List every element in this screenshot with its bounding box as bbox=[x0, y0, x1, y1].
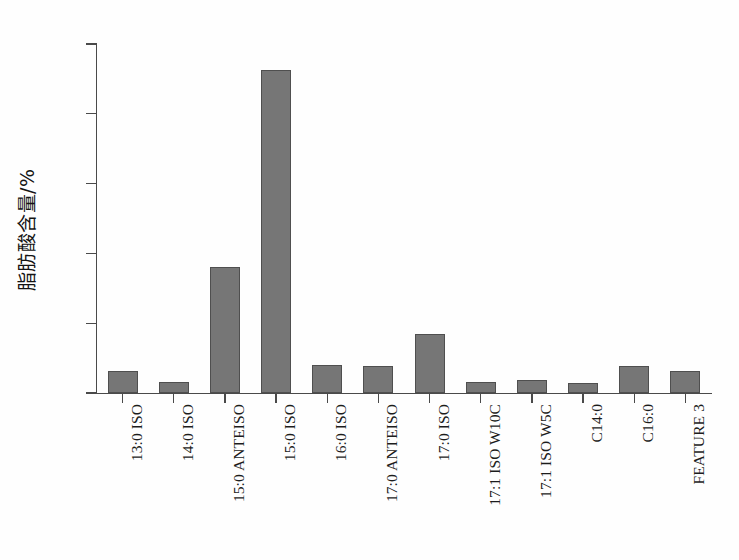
x-axis-tick bbox=[480, 393, 481, 403]
y-axis-tick bbox=[86, 392, 96, 393]
x-axis-tick bbox=[122, 393, 123, 403]
y-axis-tick bbox=[86, 253, 96, 254]
bar bbox=[363, 366, 393, 393]
bar bbox=[159, 382, 189, 393]
x-axis-tick bbox=[224, 393, 225, 403]
y-axis-title: 脂肪酸含量/% bbox=[16, 130, 38, 330]
x-axis-tick-label: 13:0 ISO bbox=[129, 404, 145, 560]
y-axis-tick bbox=[86, 43, 96, 44]
x-axis-tick-label: C14:0 bbox=[589, 404, 605, 560]
x-axis-tick bbox=[634, 393, 635, 403]
bar bbox=[261, 70, 291, 393]
bar bbox=[210, 267, 240, 393]
bar bbox=[108, 371, 138, 393]
y-axis-tick bbox=[86, 183, 96, 184]
x-axis-tick bbox=[685, 393, 686, 403]
x-axis-tick-label: 17:1 ISO W5C bbox=[538, 404, 554, 560]
x-axis-tick-label: 17:0 ANTEISO bbox=[384, 404, 400, 560]
x-axis-tick-label: 16:0 ISO bbox=[333, 404, 349, 560]
bar bbox=[466, 382, 496, 393]
x-axis-tick-label: 17:0 ISO bbox=[436, 404, 452, 560]
x-axis-tick bbox=[429, 393, 430, 403]
x-axis-tick-label: FEATURE 3 bbox=[691, 404, 707, 560]
x-axis-tick-label: 14:0 ISO bbox=[180, 404, 196, 560]
x-axis-tick bbox=[531, 393, 532, 403]
bar bbox=[670, 371, 700, 393]
bar bbox=[312, 365, 342, 393]
bar bbox=[517, 380, 547, 393]
x-axis-tick-label: 15:0 ANTEISO bbox=[231, 404, 247, 560]
x-axis-tick bbox=[582, 393, 583, 403]
x-axis-tick-label: 15:0 ISO bbox=[282, 404, 298, 560]
x-axis-tick-label: C16:0 bbox=[640, 404, 656, 560]
bar-chart: 脂肪酸含量/% 01020304050 13:0 ISO14:0 ISO15:0… bbox=[0, 0, 739, 560]
bar bbox=[415, 334, 445, 393]
x-axis-tick bbox=[378, 393, 379, 403]
y-axis-tick bbox=[86, 113, 96, 114]
bar bbox=[619, 366, 649, 393]
y-axis-line bbox=[96, 43, 97, 394]
x-axis-tick bbox=[275, 393, 276, 403]
y-axis-tick bbox=[86, 323, 96, 324]
x-axis-tick bbox=[327, 393, 328, 403]
x-axis-tick-label: 17:1 ISO W10C bbox=[487, 404, 503, 560]
x-axis-tick bbox=[173, 393, 174, 403]
bar bbox=[568, 383, 598, 393]
